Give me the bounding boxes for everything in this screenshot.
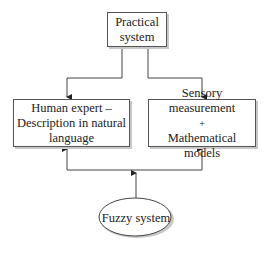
fuzzy-system-label: Fuzzy system (101, 210, 171, 226)
node-line: Description in natural (17, 116, 126, 131)
node-line: language (49, 131, 94, 146)
node-line: Mathematical models (149, 131, 255, 161)
node-line: Human expert – (31, 101, 112, 116)
practical-system-node: Practical system (107, 12, 167, 47)
edge-bus-to-human (67, 149, 136, 170)
node-line: Practical (115, 15, 159, 30)
node-line: Sensory measurement (149, 86, 255, 116)
human-expert-node: Human expert – Description in natural la… (13, 99, 130, 147)
edge-practical-to-human (67, 47, 122, 97)
node-line: + (199, 116, 205, 131)
node-line: system (120, 30, 155, 45)
sensory-measurement-node: Sensory measurement + Mathematical model… (148, 99, 256, 147)
